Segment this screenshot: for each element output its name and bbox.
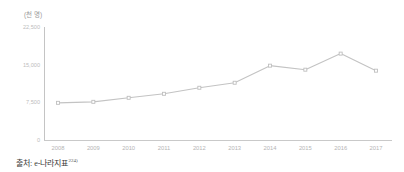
data-point-marker <box>127 96 130 99</box>
chart-figure: (천 명) 07,50015,00022,500 출처: e-나라지표224) … <box>0 0 404 172</box>
data-point-marker <box>163 92 166 95</box>
y-tick-label: 15,000 <box>23 62 40 68</box>
y-tick-label: 0 <box>37 137 40 143</box>
data-point-marker <box>198 86 201 89</box>
x-tick-label: 2009 <box>87 145 100 151</box>
y-tick-label: 22,500 <box>23 24 40 30</box>
y-axis-unit-label: (천 명) <box>24 9 42 19</box>
x-tick-label: 2013 <box>228 145 241 151</box>
source-note: 출처: e-나라지표224) <box>16 157 78 168</box>
source-prefix: 출처: <box>16 159 32 168</box>
data-point-marker <box>375 69 378 72</box>
x-tick-label: 2010 <box>122 145 135 151</box>
x-tick-label: 2015 <box>299 145 312 151</box>
data-point-marker <box>92 100 95 103</box>
series-polyline <box>58 54 376 103</box>
y-tick-label: 7,500 <box>26 99 40 105</box>
plot-area: 07,50015,00022,500 <box>44 27 390 140</box>
data-point-marker <box>233 81 236 84</box>
x-tick-label: 2014 <box>264 145 277 151</box>
data-point-marker <box>304 68 307 71</box>
x-tick-label: 2012 <box>193 145 206 151</box>
data-point-marker <box>339 52 342 55</box>
x-tick-label: 2017 <box>370 145 383 151</box>
source-name: e-나라지표 <box>34 159 68 168</box>
data-point-marker <box>269 64 272 67</box>
data-point-marker <box>57 101 60 104</box>
line-series <box>44 27 390 140</box>
x-tick-label: 2011 <box>158 145 170 151</box>
x-tick-label: 2016 <box>334 145 347 151</box>
source-footnote-marker: 224) <box>68 158 77 163</box>
series-markers <box>57 52 378 104</box>
x-axis-line <box>44 140 392 141</box>
x-tick-label: 2008 <box>52 145 65 151</box>
